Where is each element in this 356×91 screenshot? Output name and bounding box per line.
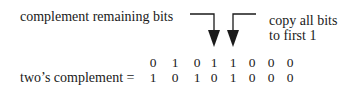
- bit: 0: [283, 55, 297, 70]
- bit: 1: [226, 55, 240, 70]
- bit: 1: [190, 70, 204, 85]
- right-arrow-head-icon: [227, 30, 239, 47]
- bit: 1: [207, 55, 221, 70]
- bit: 1: [226, 70, 240, 85]
- bit: 1: [168, 55, 182, 70]
- bit: 0: [245, 55, 259, 70]
- bit: 0: [283, 70, 297, 85]
- bit: 0: [264, 70, 278, 85]
- bit: 0: [207, 70, 221, 85]
- complement-bits-row: 1 0 1 0 1 0 0 0: [0, 70, 356, 86]
- bit: 0: [146, 55, 160, 70]
- bit: 0: [168, 70, 182, 85]
- bit: 0: [190, 55, 204, 70]
- bit: 0: [264, 55, 278, 70]
- left-arrow-head-icon: [208, 30, 220, 47]
- bit: 1: [146, 70, 160, 85]
- bit: 0: [245, 70, 259, 85]
- original-bits-row: 0 1 0 1 1 0 0 0: [0, 55, 356, 71]
